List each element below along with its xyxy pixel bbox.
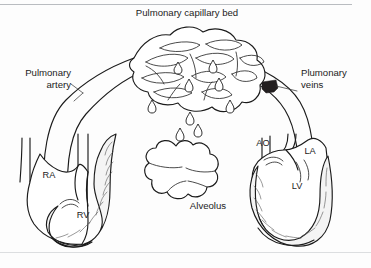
pulmonary-vein-arrow-marker: [262, 80, 278, 93]
pulmonary-artery-label-line2: artery: [46, 79, 71, 90]
left-ventricle-label: LV: [292, 181, 303, 191]
capillary-bed-label: Pulmonary capillary bed: [136, 7, 238, 18]
pulmonary-artery-leader: [71, 84, 83, 93]
pulmonary-artery-label-line1: Pulmonary: [25, 67, 71, 78]
diagram-canvas: Pulmonary capillary bed Pulmonary artery…: [0, 0, 371, 268]
right-atrium-label: RA: [43, 170, 57, 180]
alveolus-shape: [145, 141, 218, 199]
pulmonary-circulation-diagram: Pulmonary capillary bed Pulmonary artery…: [0, 0, 371, 268]
aorta-label: AO: [256, 138, 269, 148]
right-ventricle-label: RV: [77, 210, 90, 220]
left-atrium-label: LA: [304, 146, 316, 156]
right-heart: [20, 134, 116, 247]
alveolus-label: Alveolus: [190, 200, 226, 211]
pulmonary-artery-leader-tail: [74, 93, 83, 101]
pulmonary-veins-label-line1: Plumonary: [301, 67, 347, 78]
pulmonary-veins-label-line2: veins: [301, 79, 324, 90]
pulmonary-capillary-bed: [130, 27, 266, 112]
